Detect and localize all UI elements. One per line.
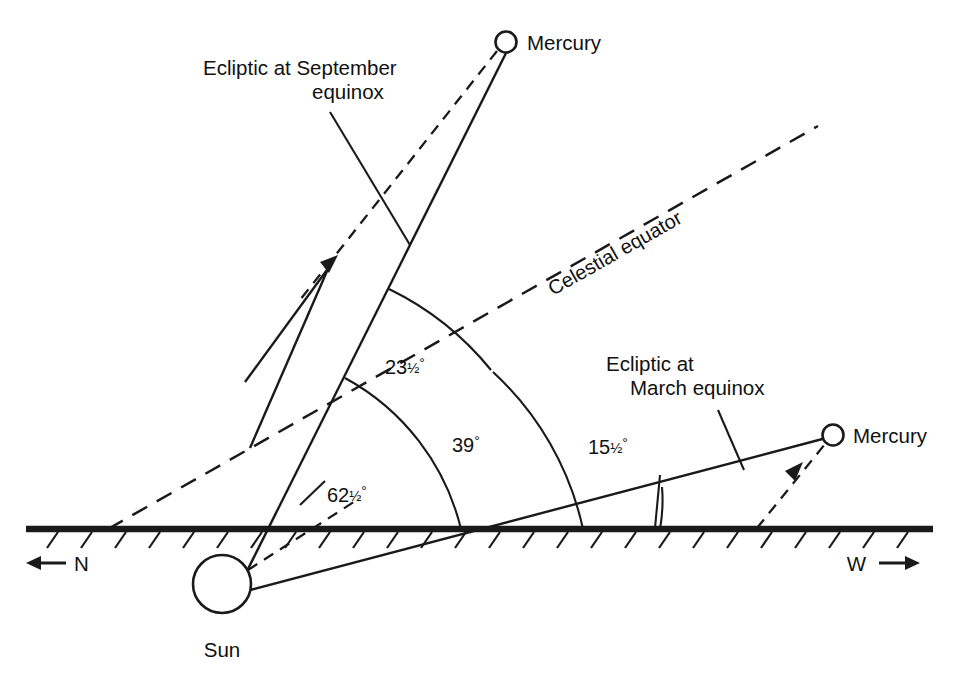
- ecliptic-september-group: [245, 47, 509, 575]
- ecliptic-september-line: [245, 47, 509, 575]
- mercury-right-group: Mercury: [757, 424, 928, 528]
- arc-62half: [345, 378, 461, 529]
- sun-circle: [193, 555, 251, 613]
- sun-group: Sun: [193, 498, 360, 661]
- north-arrow-icon: [26, 556, 66, 570]
- compass-north-label: N: [74, 552, 89, 575]
- compass-north-group: N: [26, 552, 89, 575]
- mercury-top-label: Mercury: [527, 31, 602, 54]
- ecliptic-march-label-group: Ecliptic at March equinox: [606, 352, 765, 470]
- ecliptic-september-label-leader: [330, 112, 410, 245]
- ecliptic-march-label-leader: [718, 410, 744, 470]
- angle-labels: 23½° 39° 62½° 15½°: [327, 355, 628, 506]
- west-arrow-icon: [879, 556, 920, 570]
- celestial-equator-arrow-shaft: [250, 262, 331, 448]
- ecliptic-september-label-line1: Ecliptic at September: [203, 56, 397, 79]
- celestial-equator-arrow: [245, 255, 338, 382]
- mercury-right-marker: [823, 425, 844, 446]
- astronomy-diagram-svg: Sun Mercury Mercury: [0, 0, 959, 675]
- ecliptic-march-label-line2: March equinox: [630, 376, 765, 399]
- figure-canvas: Sun Mercury Mercury: [0, 0, 959, 675]
- arc-62half-leader: [300, 481, 325, 505]
- angle-62half-label: 62½°: [327, 483, 367, 506]
- celestial-equator-label-group: Celestial equator: [544, 206, 686, 299]
- mercury-right-rise-arrow: [757, 444, 825, 528]
- compass-west-group: W: [847, 552, 920, 575]
- mercury-top-marker: [496, 32, 517, 53]
- compass-west-label: W: [847, 552, 867, 575]
- celestial-equator-label: Celestial equator: [544, 206, 686, 299]
- ecliptic-march-label-line1: Ecliptic at: [606, 352, 694, 375]
- mercury-right-label: Mercury: [853, 424, 928, 447]
- ecliptic-september-label-line2: equinox: [312, 80, 385, 103]
- angle-39-label: 39°: [452, 433, 480, 456]
- angle-23half-label: 23½°: [385, 355, 425, 378]
- sun-label: Sun: [204, 638, 240, 661]
- angle-15half-label: 15½°: [588, 435, 628, 458]
- angle-arc-62half: [300, 378, 461, 529]
- horizon-hatching: [47, 532, 908, 548]
- horizon-group: [26, 529, 933, 548]
- ecliptic-september-label-group: Ecliptic at September equinox: [203, 56, 410, 245]
- arc-15half: [660, 487, 663, 529]
